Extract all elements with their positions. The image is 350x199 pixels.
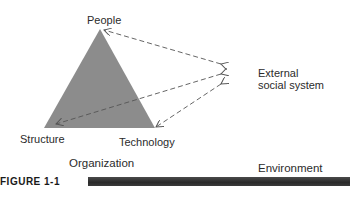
edge-external-people (104, 30, 221, 64)
node-label-people: People (87, 14, 121, 26)
section-label-environment: Environment (258, 162, 323, 174)
node-label-technology: Technology (119, 136, 175, 148)
node-label-structure: Structure (20, 133, 65, 145)
external-line-2: social system (258, 79, 324, 91)
organization-triangle (44, 29, 155, 128)
external-line-1: External (258, 67, 324, 79)
figure-caption-label: FIGURE 1-1 (0, 176, 60, 187)
figure-caption-bar (88, 177, 350, 186)
section-label-organization: Organization (69, 157, 134, 169)
node-label-external-social-system: External social system (258, 67, 324, 91)
